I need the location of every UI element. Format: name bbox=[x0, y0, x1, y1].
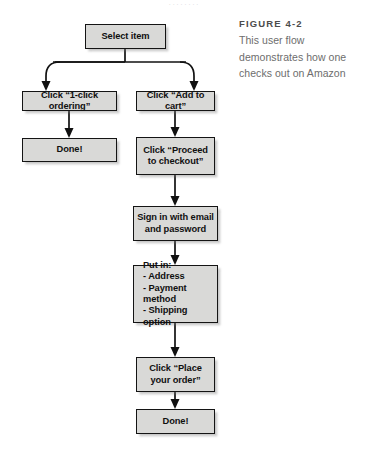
flow-node-sign-in[interactable]: Sign in with email and password bbox=[133, 206, 218, 241]
flow-node-one-click-ordering[interactable]: Click “1-click ordering” bbox=[22, 91, 117, 111]
flow-node-place-your-order[interactable]: Click “Place your order” bbox=[136, 357, 215, 392]
flow-node-line: Select item bbox=[89, 31, 162, 42]
flow-node-line: - Shipping option bbox=[143, 305, 214, 328]
flowchart: Select item Click “1-click ordering” Cli… bbox=[0, 0, 239, 452]
arrowhead-to-proceed bbox=[171, 127, 180, 137]
figure-caption: FIGURE 4-2 This user flow demonstrates h… bbox=[239, 17, 361, 82]
flow-node-line: to checkout” bbox=[140, 156, 211, 167]
flow-node-line: Sign in with email bbox=[137, 212, 214, 223]
arrowhead-to-done-bottom bbox=[171, 399, 180, 409]
flow-node-done-bottom[interactable]: Done! bbox=[136, 409, 215, 434]
flow-node-done-left[interactable]: Done! bbox=[22, 138, 117, 162]
figure-page: ........ bbox=[0, 0, 369, 452]
flow-node-select-item[interactable]: Select item bbox=[85, 24, 166, 49]
flow-node-line: Done! bbox=[140, 416, 211, 427]
flow-node-line: Click “Proceed bbox=[140, 145, 211, 156]
flow-node-line: Done! bbox=[26, 144, 113, 155]
flow-node-line: Click “1-click ordering” bbox=[26, 90, 113, 113]
flow-node-line: Click “Place bbox=[140, 363, 211, 374]
flow-node-line: your order” bbox=[140, 375, 211, 386]
flow-node-put-in[interactable]: Put in: - Address - Payment method - Shi… bbox=[133, 265, 218, 323]
flow-node-line: Click “Add to cart” bbox=[140, 90, 211, 113]
flow-node-line: - Address bbox=[143, 271, 214, 282]
flow-node-line: - Payment method bbox=[143, 283, 214, 306]
arrowhead-to-sign-in bbox=[171, 196, 180, 206]
caption-line: checks out on Amazon bbox=[239, 65, 361, 82]
flow-node-line: Put in: bbox=[143, 260, 214, 271]
arrowhead-to-place-order bbox=[171, 347, 180, 357]
flow-node-line: and password bbox=[137, 224, 214, 235]
caption-line: This user flow bbox=[239, 32, 361, 49]
caption-line: demonstrates how one bbox=[239, 49, 361, 66]
flow-node-add-to-cart[interactable]: Click “Add to cart” bbox=[136, 91, 215, 111]
arrowhead-to-done-left bbox=[65, 128, 74, 138]
flow-node-proceed-to-checkout[interactable]: Click “Proceed to checkout” bbox=[136, 137, 215, 175]
figure-number-label: FIGURE 4-2 bbox=[239, 17, 361, 31]
